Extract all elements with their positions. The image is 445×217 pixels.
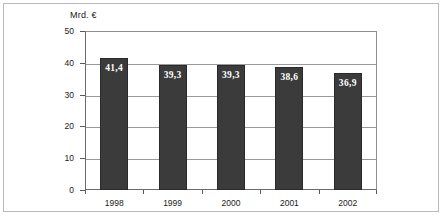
bar-value-label: 39,3 <box>218 70 244 80</box>
y-tick-label: 0 <box>69 185 74 195</box>
x-tick-mark <box>319 190 320 194</box>
x-tick-label: 2002 <box>319 198 377 208</box>
bar[interactable]: 39,3 <box>159 65 187 190</box>
x-tick-label: 1998 <box>85 198 143 208</box>
bar-slot: 39,3 <box>143 31 201 190</box>
bar-slot: 36,9 <box>319 31 377 190</box>
bar-value-label: 41,4 <box>101 63 127 73</box>
bar[interactable]: 39,3 <box>217 65 245 190</box>
bar-slot: 38,6 <box>260 31 318 190</box>
chart-figure: Mrd. € 01020304050 41,439,339,338,636,9 … <box>0 0 445 217</box>
x-tick-mark <box>202 190 203 194</box>
x-axis: 19981999200020012002 <box>85 190 377 217</box>
x-tick-label: 1999 <box>143 198 201 208</box>
bar-value-label: 39,3 <box>160 70 186 80</box>
y-tick-label: 30 <box>65 90 74 100</box>
bar[interactable]: 41,4 <box>100 58 128 190</box>
x-tick-mark <box>376 190 377 194</box>
x-tick-mark <box>143 190 144 194</box>
x-tick-label: 2001 <box>260 198 318 208</box>
bar-value-label: 36,9 <box>335 78 361 88</box>
x-tick-label: 2000 <box>202 198 260 208</box>
x-tick-mark <box>260 190 261 194</box>
bar-slot: 39,3 <box>202 31 260 190</box>
y-tick-label: 40 <box>65 58 74 68</box>
y-axis: 01020304050 <box>0 0 85 217</box>
bar-series: 41,439,339,338,636,9 <box>85 31 377 190</box>
bar[interactable]: 36,9 <box>334 73 362 190</box>
x-tick-mark <box>85 190 86 194</box>
y-tick-label: 20 <box>65 121 74 131</box>
bar-value-label: 38,6 <box>276 72 302 82</box>
y-tick-label: 10 <box>65 153 74 163</box>
y-tick-label: 50 <box>65 26 74 36</box>
bar[interactable]: 38,6 <box>275 67 303 190</box>
bar-slot: 41,4 <box>85 31 143 190</box>
